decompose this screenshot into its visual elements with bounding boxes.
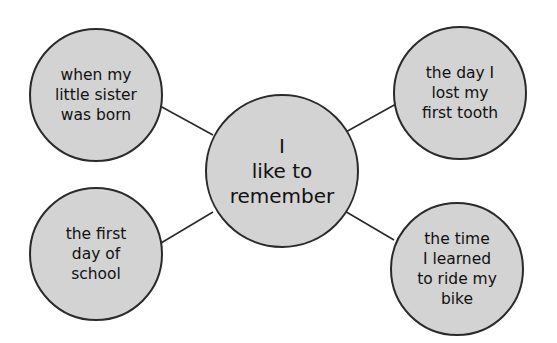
- node-text-line: bike: [417, 289, 497, 309]
- node-text-line: school: [66, 264, 127, 284]
- node-text-line: I learned: [417, 249, 497, 269]
- node-text-line: to ride my: [417, 269, 497, 289]
- center-node: I like to remember: [205, 94, 359, 248]
- node-text-line: first tooth: [422, 103, 498, 123]
- connector-bottom-right: [343, 210, 394, 240]
- node-text-line: when my: [55, 65, 137, 85]
- node-text-line: lost my: [422, 83, 498, 103]
- node-top-left: when my little sister was born: [29, 28, 163, 162]
- node-text-line: the first: [66, 224, 127, 244]
- node-bottom-left: the first day of school: [29, 187, 163, 321]
- center-text-line: remember: [230, 184, 335, 209]
- node-top-right: the day I lost my first tooth: [393, 26, 527, 160]
- connector-top-right: [344, 104, 396, 133]
- node-text-line: was born: [55, 105, 137, 125]
- connector-bottom-left: [161, 212, 213, 243]
- node-text-line: the time: [417, 229, 497, 249]
- node-text-line: day of: [66, 244, 127, 264]
- center-text-line: I: [230, 134, 335, 159]
- connector-top-left: [160, 106, 213, 135]
- node-text-line: the day I: [422, 63, 498, 83]
- center-text-line: like to: [230, 159, 335, 184]
- node-text-line: little sister: [55, 85, 137, 105]
- node-bottom-right: the time I learned to ride my bike: [390, 202, 524, 336]
